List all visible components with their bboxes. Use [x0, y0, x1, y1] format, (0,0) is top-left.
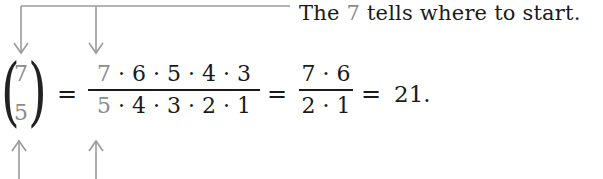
- binomial-top: 7: [14, 61, 28, 86]
- caption-highlight: 7: [346, 1, 360, 25]
- numerator-highlight: 7: [97, 61, 111, 86]
- fraction-1: 7 · 6 · 5 · 4 · 3 5 · 4 · 3 · 2 · 1: [88, 61, 260, 118]
- equals-sign-2: =: [267, 80, 287, 108]
- numerator-rest: · 6 · 5 · 4 · 3: [118, 61, 251, 86]
- denominator-highlight: 5: [97, 93, 111, 118]
- fraction-1-denominator: 5 · 4 · 3 · 2 · 1: [88, 93, 260, 118]
- equals-sign-3: =: [361, 80, 381, 108]
- equals-sign-1: =: [57, 80, 77, 108]
- denominator-rest: · 4 · 3 · 2 · 1: [118, 93, 251, 118]
- fraction-2-numerator: 7 · 6: [299, 61, 353, 86]
- fraction-2-bar: [299, 89, 353, 91]
- fraction-2: 7 · 6 2 · 1: [299, 61, 353, 118]
- fraction-1-bar: [88, 89, 260, 91]
- fraction-1-numerator: 7 · 6 · 5 · 4 · 3: [88, 61, 260, 86]
- fraction-2-denominator: 2 · 1: [299, 93, 353, 118]
- result-value: 21.: [394, 81, 431, 107]
- top-caption: The 7 tells where to start.: [299, 1, 581, 25]
- right-paren: ): [28, 54, 47, 128]
- caption-prefix: The: [299, 1, 340, 25]
- caption-suffix: tells where to start.: [367, 1, 581, 25]
- binomial-bottom: 5: [14, 100, 28, 125]
